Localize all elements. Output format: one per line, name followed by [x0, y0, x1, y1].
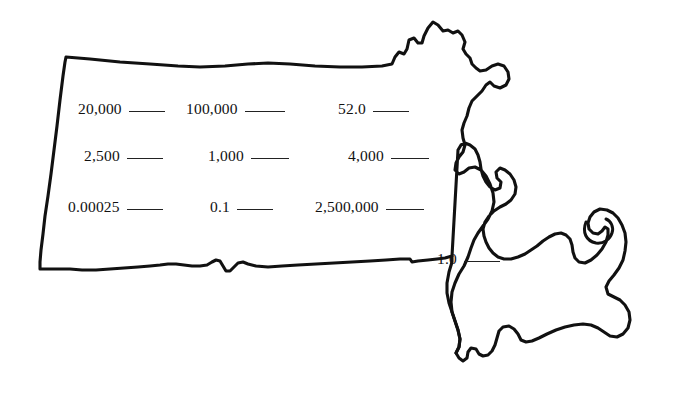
answer-item: 2,500: [84, 147, 208, 165]
worksheet-page: 20,000 100,000 52.0 2,500 1,000 4,000 0.…: [0, 0, 691, 400]
answer-item: 0.1: [210, 198, 315, 216]
worksheet-row-1: 20,000 100,000 52.0: [78, 100, 409, 118]
answer-item: 100,000: [186, 100, 338, 118]
answer-item: 2,500,000: [315, 198, 424, 216]
answer-blank[interactable]: [245, 111, 285, 112]
worksheet-row-4: 1.0: [437, 250, 500, 268]
answer-blank[interactable]: [251, 158, 289, 159]
answer-blank[interactable]: [237, 209, 273, 210]
answer-blank[interactable]: [373, 111, 409, 112]
answer-item: 0.00025: [68, 198, 210, 216]
answer-value: 2,500: [84, 147, 120, 165]
answer-value: 2,500,000: [315, 198, 379, 216]
answer-blank[interactable]: [127, 209, 163, 210]
answer-blank[interactable]: [386, 209, 424, 210]
answer-value: 0.00025: [68, 198, 120, 216]
answer-item: 20,000: [78, 100, 186, 118]
answer-value: 20,000: [78, 100, 122, 118]
answer-value: 100,000: [186, 100, 238, 118]
answer-item: 1.0: [437, 250, 500, 268]
answer-item: 1,000: [208, 147, 348, 165]
answer-value: 1.0: [437, 250, 457, 268]
answer-item: 52.0: [338, 100, 409, 118]
answer-blank[interactable]: [127, 158, 163, 159]
answer-value: 52.0: [338, 100, 366, 118]
answer-blank[interactable]: [129, 111, 165, 112]
answer-value: 0.1: [210, 198, 230, 216]
answer-blank[interactable]: [391, 158, 429, 159]
worksheet-row-3: 0.00025 0.1 2,500,000: [68, 198, 424, 216]
answer-blank[interactable]: [464, 261, 500, 262]
worksheet-row-2: 2,500 1,000 4,000: [84, 147, 429, 165]
answer-item: 4,000: [348, 147, 429, 165]
answer-value: 4,000: [348, 147, 384, 165]
answer-value: 1,000: [208, 147, 244, 165]
